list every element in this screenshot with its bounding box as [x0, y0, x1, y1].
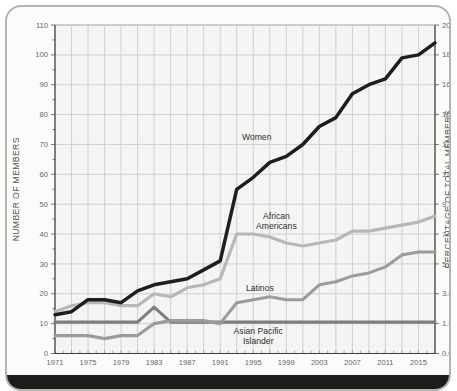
series-label-asian-pacific-islander: Islander [243, 336, 274, 346]
y-left-tick-label: 90 [40, 80, 48, 89]
y-left-tick-label: 60 [40, 170, 48, 179]
y-left-tick-label: 10 [40, 319, 48, 328]
y-right-tick-label: 3.8 [442, 289, 451, 298]
series-label-asian-pacific-islander: Asian Pacific [234, 326, 284, 336]
series-label-african-americans: Americans [256, 221, 297, 231]
y-left-tick-label: 40 [40, 230, 48, 239]
x-tick-label: 1983 [146, 358, 163, 367]
card-footer-bar [7, 375, 449, 389]
x-tick-label: 1987 [179, 358, 196, 367]
x-tick-label: 1979 [113, 358, 130, 367]
x-tick-label: 2007 [344, 358, 361, 367]
y-right-tick-label: 1.9 [442, 319, 451, 328]
x-tick-label: 1991 [212, 358, 229, 367]
y-left-tick-label: 110 [36, 21, 48, 30]
y-right-tick-label: 0.0 [442, 349, 451, 358]
chart-area: Asian PacificIslanderLatinosAfricanAmeri… [7, 7, 449, 375]
y-left-tick-label: 50 [40, 200, 48, 209]
y-right-tick-label: 20.6 [442, 21, 451, 30]
screenshot-root: { "frame": { "card_bg": "#fbfbfa", "card… [0, 0, 457, 391]
y-left-tick-label: 80 [40, 110, 48, 119]
y-axis-left-title: NUMBER OF MEMBERS [11, 137, 21, 241]
x-tick-label: 2011 [377, 358, 393, 367]
congress-members-line-chart: Asian PacificIslanderLatinosAfricanAmeri… [7, 7, 451, 383]
series-label-african-americans: African [263, 211, 290, 221]
chart-card: Asian PacificIslanderLatinosAfricanAmeri… [5, 5, 451, 391]
x-tick-label: 1999 [278, 358, 295, 367]
y-right-tick-label: 16.8 [442, 80, 451, 89]
y-axis-right-title: PERCENTAGE OF TOTAL MEMBERS [443, 110, 451, 268]
y-left-tick-label: 100 [35, 50, 48, 59]
y-left-tick-label: 20 [40, 289, 48, 298]
series-label-women: Women [242, 132, 272, 142]
series-label-latinos: Latinos [246, 283, 274, 293]
x-tick-label: 1971 [47, 358, 64, 367]
x-tick-label: 1995 [245, 358, 262, 367]
x-tick-label: 2015 [410, 358, 427, 367]
x-tick-label: 2003 [311, 358, 328, 367]
y-right-tick-label: 18.7 [442, 50, 451, 59]
y-left-tick-label: 70 [40, 140, 48, 149]
y-left-tick-label: 30 [40, 260, 48, 269]
x-tick-label: 1975 [80, 358, 97, 367]
